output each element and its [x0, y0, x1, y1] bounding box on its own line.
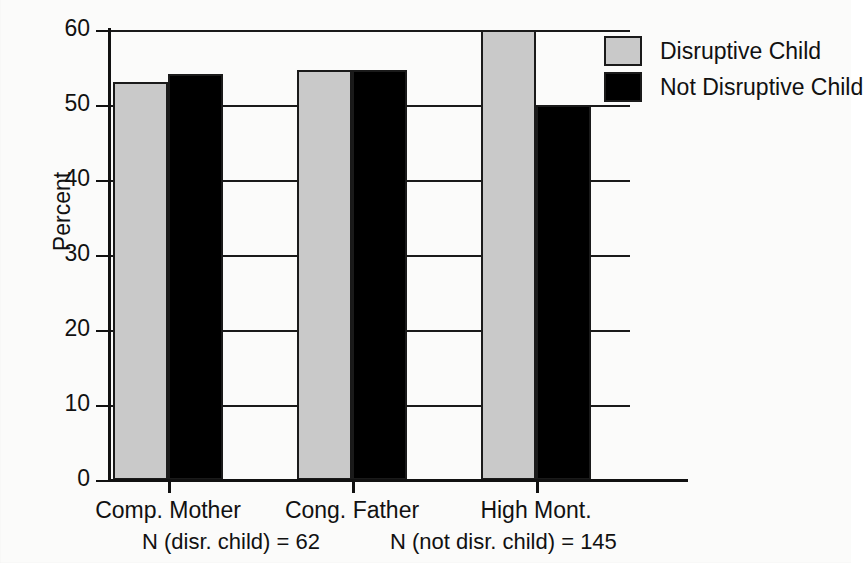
- x-tick-mark-2: [352, 479, 355, 493]
- category-label-3: High Mont.: [436, 497, 636, 524]
- y-tick-label-50: 50: [20, 92, 90, 115]
- legend-label-2: Not Disruptive Child: [660, 74, 863, 101]
- legend-label-1: Disruptive Child: [660, 38, 821, 65]
- note-not-disruptive-n: N (not disr. child) = 145: [390, 529, 617, 555]
- y-tick-mark-50: [96, 105, 110, 107]
- note-disruptive-n: N (disr. child) = 62: [142, 529, 320, 555]
- y-tick-mark-0: [96, 480, 110, 482]
- category-label-1: Comp. Mother: [68, 497, 268, 524]
- legend-item-2: Not Disruptive Child: [604, 70, 850, 104]
- bar-comp-mother-disruptive-child: [113, 82, 168, 480]
- y-tick-mark-20: [96, 330, 110, 332]
- x-axis-line: [108, 479, 688, 482]
- y-tick-label-10: 10: [20, 392, 90, 415]
- x-tick-mark-1: [168, 479, 171, 493]
- y-axis-title: Percent: [49, 132, 76, 292]
- y-tick-mark-40: [96, 180, 110, 182]
- legend-swatch-1: [604, 36, 642, 66]
- x-tick-mark-3: [536, 479, 539, 493]
- bar-high-mont-disruptive-child: [481, 30, 536, 480]
- y-tick-label-60: 60: [20, 17, 90, 40]
- y-tick-mark-10: [96, 405, 110, 407]
- y-tick-label-20: 20: [20, 317, 90, 340]
- bar-cong-father-not-disruptive-child: [352, 70, 407, 480]
- legend-item-1: Disruptive Child: [604, 34, 850, 68]
- bar-comp-mother-not-disruptive-child: [168, 74, 223, 480]
- y-tick-mark-30: [96, 255, 110, 257]
- bar-high-mont-not-disruptive-child: [536, 105, 591, 480]
- y-tick-label-0: 0: [20, 467, 90, 490]
- legend-swatch-2: [604, 72, 642, 102]
- y-tick-mark-60: [96, 30, 110, 32]
- legend: Disruptive ChildNot Disruptive Child: [604, 34, 850, 106]
- category-label-2: Cong. Father: [252, 497, 452, 524]
- plot-area: [110, 30, 630, 480]
- bar-cong-father-disruptive-child: [297, 70, 352, 480]
